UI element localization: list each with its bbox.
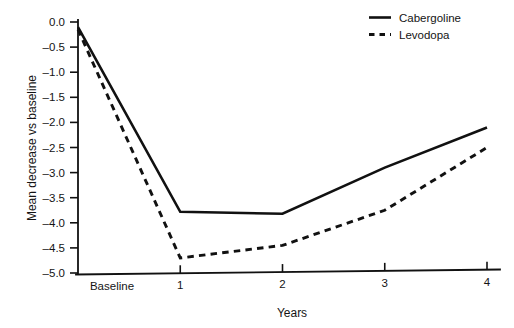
- chart-container: 0.0–0.5–1.0–1.5–2.0–2.5–3.0–3.5–4.0–4.5–…: [0, 0, 514, 328]
- x-axis-line: [76, 270, 500, 275]
- y-tick-label: –3.5: [43, 192, 65, 204]
- legend-label-cabergoline: Cabergoline: [399, 12, 461, 24]
- x-tick-label: Baseline: [90, 280, 134, 292]
- series-group: [78, 27, 487, 258]
- y-tick-label: –0.5: [43, 41, 65, 53]
- x-tick-label: 3: [382, 277, 388, 289]
- y-tick-label: 0.0: [49, 16, 65, 28]
- y-tick-label: –4.0: [43, 217, 65, 229]
- y-tick-label: –3.0: [43, 167, 65, 179]
- x-tick-label: 2: [279, 278, 285, 290]
- y-tick-label-group: 0.0–0.5–1.0–1.5–2.0–2.5–3.0–3.5–4.0–4.5–…: [43, 16, 65, 279]
- y-axis-title: Mean decrease vs baseline: [25, 75, 39, 221]
- x-axis: [76, 262, 500, 275]
- y-tick-label: –2.0: [43, 116, 65, 128]
- y-tick-label: –1.5: [43, 91, 65, 103]
- y-axis: [70, 20, 78, 274]
- x-tick-label-group: Baseline1234: [90, 276, 491, 293]
- legend-label-levodopa: Levodopa: [399, 29, 450, 41]
- series-line-levodopa: [78, 30, 487, 258]
- y-tick-label: –2.5: [43, 142, 65, 154]
- x-tick-label: 4: [484, 276, 491, 288]
- legend: Cabergoline Levodopa: [369, 12, 461, 41]
- y-tick-label: –5.0: [43, 267, 65, 279]
- y-tick-label: –4.5: [43, 242, 65, 254]
- line-chart: 0.0–0.5–1.0–1.5–2.0–2.5–3.0–3.5–4.0–4.5–…: [0, 0, 514, 328]
- y-axis-ticks: [70, 22, 78, 273]
- x-axis-title: Years: [277, 306, 307, 320]
- y-tick-label: –1.0: [43, 66, 65, 78]
- x-tick-label: 1: [177, 279, 183, 291]
